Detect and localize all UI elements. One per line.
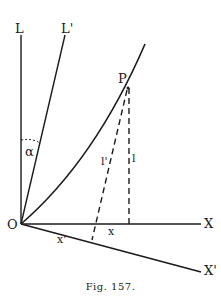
label-l: l (132, 153, 136, 164)
point-P (127, 87, 130, 90)
figure-caption: Fig. 157. (0, 281, 221, 292)
label-X: X (204, 217, 213, 230)
label-alpha: α (25, 145, 34, 158)
label-O: O (7, 218, 18, 231)
label-l-prime: l' (101, 156, 108, 167)
label-L: L (15, 22, 24, 35)
angle-alpha-arc (21, 139, 40, 143)
dashed-l-prime (92, 90, 127, 240)
label-x-prime: x' (57, 234, 66, 245)
label-x: x (108, 226, 114, 237)
label-P: P (118, 72, 127, 85)
label-L-prime: L' (61, 22, 73, 35)
axis-L-prime (21, 35, 65, 224)
label-X-prime: X' (204, 264, 217, 277)
